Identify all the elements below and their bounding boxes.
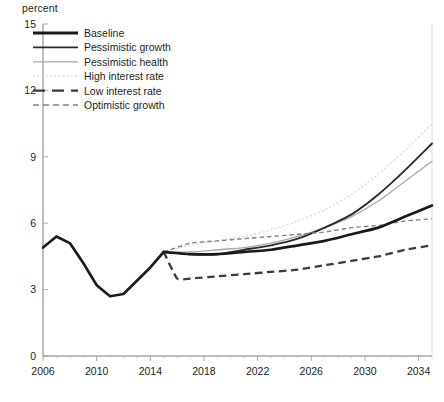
series-line-optimistic-growth	[164, 219, 432, 252]
legend-label-optimistic-growth: Optimistic growth	[84, 99, 165, 111]
series-line-historical	[43, 236, 164, 296]
x-tick-label: 2034	[407, 365, 431, 377]
x-tick-label: 2022	[246, 365, 270, 377]
x-tick-label: 2014	[139, 365, 163, 377]
line-chart-svg: 0369121520062010201420182022202620302034…	[0, 0, 444, 402]
y-tick-label: 15	[24, 18, 36, 30]
chart-legend: BaselinePessimistic growthPessimistic he…	[33, 27, 171, 111]
legend-label-baseline: Baseline	[84, 27, 124, 39]
legend-label-pessimistic-growth: Pessimistic growth	[84, 41, 171, 53]
x-tick-label: 2030	[353, 365, 377, 377]
series-line-pessimistic-growth	[164, 144, 432, 255]
series-line-high-interest-rate	[164, 124, 432, 252]
x-tick-label: 2026	[300, 365, 324, 377]
x-tick-label: 2018	[192, 365, 216, 377]
series-line-baseline	[164, 205, 432, 254]
x-tick-label: 2010	[85, 365, 109, 377]
chart-container: percent 03691215200620102014201820222026…	[0, 0, 444, 402]
y-tick-label: 0	[30, 350, 36, 362]
legend-label-high-interest-rate: High interest rate	[84, 70, 164, 82]
x-tick-label: 2006	[31, 365, 55, 377]
y-tick-label: 3	[30, 283, 36, 295]
y-tick-label: 9	[30, 151, 36, 163]
data-series-group	[43, 124, 432, 297]
legend-label-low-interest-rate: Low interest rate	[84, 85, 162, 97]
legend-label-pessimistic-health: Pessimistic health	[84, 56, 168, 68]
y-tick-label: 6	[30, 217, 36, 229]
